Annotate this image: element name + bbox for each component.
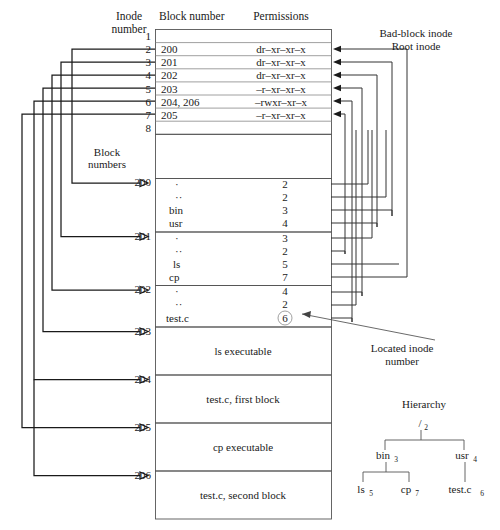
dirent-name-202-2: test.c: [166, 312, 189, 324]
dirent-name-202-0: ·: [175, 285, 179, 297]
hierarchy-tree: Hierarchy / 2 bin 3 usr 4 ls 5 cp 7 test…: [357, 398, 484, 498]
block-content-206: test.c, second block: [200, 489, 287, 501]
block-content-203: ls executable: [214, 345, 271, 357]
header-inode-number-line1: Inode: [116, 10, 142, 22]
inode-index-1: 1: [146, 30, 152, 42]
label-block-numbers-line1: Block: [94, 146, 121, 158]
block-content-205: cp executable: [213, 441, 273, 453]
free-inode-area: [156, 134, 332, 178]
dirent-name-200-2: bin: [169, 204, 184, 216]
label-bad-block-inode: Bad-block inode: [379, 27, 452, 39]
label-hierarchy: Hierarchy: [402, 398, 446, 410]
tree-node-root-inode: 2: [424, 423, 428, 432]
dirent-inode-200-1: 2: [282, 191, 288, 203]
inode-perms-2: dr–xr–xr–x: [256, 43, 306, 55]
label-located-inode-line2: number: [385, 355, 419, 367]
dirent-name-201-2: ls: [173, 258, 180, 270]
dirent-inode-200-0: 2: [282, 178, 288, 190]
tree-node-testc-inode: 6: [480, 489, 484, 498]
inode-index-7: 7: [146, 109, 152, 121]
tree-node-testc-name: test.c: [449, 483, 472, 495]
header-permissions: Permissions: [253, 10, 309, 22]
tree-node-root-name: /: [418, 417, 422, 429]
tree-node-bin-inode: 3: [394, 455, 398, 464]
block-label-206: 206: [135, 469, 152, 481]
dirent-inode-202-0: 4: [282, 285, 288, 297]
dirent-name-200-0: ·: [175, 178, 179, 190]
inode-block-6: 204, 206: [161, 96, 200, 108]
block-label-202: 202: [135, 283, 152, 295]
dirent-name-201-3: cp: [169, 271, 180, 283]
dirent-inode-202-2: 6: [282, 312, 288, 324]
inode-block-3: 201: [161, 56, 178, 68]
inode-perms-5: –r–xr–xr–x: [255, 83, 306, 95]
header-inode-number-line2: number: [111, 23, 146, 35]
dirent-name-200-3: usr: [169, 217, 183, 229]
dirent-inode-200-3: 4: [282, 217, 288, 229]
dirent-inode-201-1: 2: [282, 245, 288, 257]
dirent-name-202-1: ··: [175, 298, 182, 310]
label-root-inode: Root inode: [392, 40, 441, 52]
dirent-inode-201-0: 3: [282, 232, 288, 244]
inode-perms-7: –r–xr–xr–x: [255, 109, 306, 121]
tree-node-cp-inode: 7: [415, 489, 419, 498]
inode-to-block-connectors: [22, 49, 155, 479]
dirent-inode-201-3: 7: [282, 271, 288, 283]
tree-node-usr-inode: 4: [473, 455, 477, 464]
inode-perms-3: dr–xr–xr–x: [256, 56, 306, 68]
dirent-to-inode-connectors: [331, 46, 407, 322]
located-inode-callout: Located inode number: [302, 311, 435, 367]
inode-block-2: 200: [161, 43, 178, 55]
inode-table: 1 2 200 dr–xr–xr–x 3 201 dr–xr–xr–x 4 20…: [146, 30, 332, 135]
inode-perms-6: –rwxr–xr–x: [254, 96, 307, 108]
block-label-205: 205: [135, 421, 152, 433]
inode-block-4: 202: [161, 69, 178, 81]
block-label-204: 204: [135, 373, 152, 385]
block-label-200: 200: [135, 176, 152, 188]
inode-block-7: 205: [161, 109, 178, 121]
dirent-inode-200-2: 3: [282, 204, 288, 216]
block-label-201: 201: [135, 230, 152, 242]
inode-perms-4: dr–xr–xr–x: [256, 69, 306, 81]
block-content-204: test.c, first block: [206, 393, 280, 405]
dirent-name-201-1: ··: [175, 245, 182, 257]
tree-node-cp-name: cp: [401, 483, 412, 495]
dirent-inode-201-2: 5: [282, 258, 288, 270]
tree-node-ls-inode: 5: [369, 489, 373, 498]
dirent-inode-202-1: 2: [282, 298, 288, 310]
block-table: 200 · 2 ·· 2 bin 3 usr 4 201 · 3 ·· 2 ls…: [135, 176, 332, 519]
filesystem-inode-diagram: Inode number Block number Permissions 1 …: [0, 0, 500, 530]
block-label-203: 203: [135, 325, 152, 337]
label-located-inode-line1: Located inode: [371, 342, 434, 354]
inode-block-5: 203: [161, 83, 178, 95]
tree-node-ls-name: ls: [357, 483, 364, 495]
tree-node-bin-name: bin: [376, 449, 391, 461]
tree-node-usr-name: usr: [455, 449, 469, 461]
header-block-number: Block number: [159, 10, 225, 22]
dirent-name-200-1: ··: [175, 191, 182, 203]
label-block-numbers-line2: numbers: [88, 158, 126, 170]
dirent-name-201-0: ·: [175, 232, 179, 244]
inode-index-8: 8: [146, 122, 152, 134]
